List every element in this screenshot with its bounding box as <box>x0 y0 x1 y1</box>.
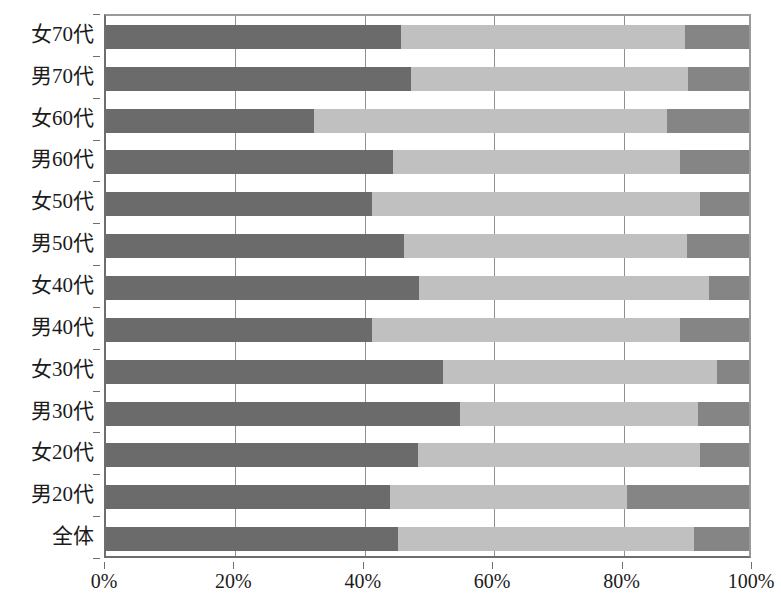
bar-segment-2 <box>418 443 700 467</box>
category-tick-1 <box>93 14 100 15</box>
bar-segment-1 <box>106 25 401 49</box>
bar-row <box>106 402 749 426</box>
bar-segment-2 <box>404 234 687 258</box>
bar-segment-3 <box>698 402 749 426</box>
bar-segment-3 <box>709 276 750 300</box>
category-tick-10 <box>93 391 100 392</box>
bar-segment-3 <box>685 25 749 49</box>
bar-segment-3 <box>667 109 749 133</box>
bar-segment-2 <box>314 109 667 133</box>
bar-row <box>106 192 749 216</box>
bar-row <box>106 67 749 91</box>
value-tick-mark-60 <box>492 562 493 569</box>
category-label-7: 女40代 <box>31 275 94 296</box>
category-label-1: 女70代 <box>31 24 94 45</box>
bar-row <box>106 150 749 174</box>
bar-segment-1 <box>106 109 314 133</box>
bar-segment-3 <box>700 443 749 467</box>
bar-row <box>106 360 749 384</box>
category-label-4: 男60代 <box>31 149 94 170</box>
category-label-8: 男40代 <box>31 317 94 338</box>
bar-segment-1 <box>106 318 372 342</box>
category-label-12: 男20代 <box>31 484 94 505</box>
bar-segment-3 <box>717 360 749 384</box>
bars-layer <box>106 16 749 556</box>
category-tick-3 <box>93 98 100 99</box>
bar-segment-2 <box>393 150 679 174</box>
value-tick-label-60: 60% <box>474 571 511 591</box>
bar-segment-3 <box>627 485 749 509</box>
bar-segment-1 <box>106 443 418 467</box>
category-tick-9 <box>93 349 100 350</box>
bar-segment-2 <box>372 192 700 216</box>
category-tick-8 <box>93 307 100 308</box>
category-label-11: 女20代 <box>31 442 94 463</box>
category-label-5: 女50代 <box>31 191 94 212</box>
bar-segment-2 <box>390 485 627 509</box>
bar-segment-2 <box>419 276 708 300</box>
bar-segment-3 <box>687 234 749 258</box>
bar-row <box>106 443 749 467</box>
category-label-3: 女60代 <box>31 108 94 129</box>
bar-row <box>106 109 749 133</box>
plot-area <box>104 14 751 558</box>
category-axis-labels: 女70代男70代女60代男60代女50代男50代女40代男40代女30代男30代… <box>0 14 100 558</box>
bar-segment-2 <box>411 67 688 91</box>
bar-segment-2 <box>398 527 694 551</box>
value-tick-mark-0 <box>104 562 105 569</box>
bar-row <box>106 276 749 300</box>
bar-segment-2 <box>372 318 681 342</box>
value-tick-mark-80 <box>622 562 623 569</box>
bar-segment-1 <box>106 234 404 258</box>
bar-segment-1 <box>106 67 411 91</box>
category-tick-end <box>93 558 100 559</box>
bar-segment-2 <box>460 402 698 426</box>
value-tick-label-0: 0% <box>91 571 118 591</box>
category-tick-13 <box>93 516 100 517</box>
bar-segment-3 <box>694 527 749 551</box>
bar-segment-3 <box>680 150 749 174</box>
value-tick-mark-100 <box>751 562 752 569</box>
category-label-9: 女30代 <box>31 359 94 380</box>
bar-segment-1 <box>106 485 390 509</box>
bar-segment-1 <box>106 402 460 426</box>
bar-segment-3 <box>688 67 749 91</box>
value-tick-label-40: 40% <box>344 571 381 591</box>
value-tick-label-80: 80% <box>603 571 640 591</box>
value-tick-label-100: 100% <box>728 571 775 591</box>
category-tick-11 <box>93 432 100 433</box>
bar-segment-1 <box>106 527 398 551</box>
bar-row <box>106 527 749 551</box>
bar-row <box>106 318 749 342</box>
bar-segment-1 <box>106 150 393 174</box>
value-tick-label-20: 20% <box>215 571 252 591</box>
category-tick-2 <box>93 56 100 57</box>
category-label-6: 男50代 <box>31 233 94 254</box>
bar-segment-1 <box>106 276 419 300</box>
bar-segment-1 <box>106 360 443 384</box>
bar-row <box>106 25 749 49</box>
bar-segment-3 <box>700 192 749 216</box>
category-label-13: 全体 <box>52 526 94 547</box>
bar-segment-1 <box>106 192 372 216</box>
value-tick-mark-40 <box>363 562 364 569</box>
category-tick-4 <box>93 140 100 141</box>
bar-segment-2 <box>401 25 685 49</box>
value-axis-labels: 0%20%40%60%80%100% <box>104 562 751 592</box>
bar-row <box>106 485 749 509</box>
category-tick-7 <box>93 265 100 266</box>
category-tick-6 <box>93 223 100 224</box>
bar-segment-3 <box>680 318 749 342</box>
category-label-10: 男30代 <box>31 401 94 422</box>
category-label-2: 男70代 <box>31 66 94 87</box>
category-tick-5 <box>93 181 100 182</box>
bar-segment-2 <box>443 360 717 384</box>
stacked-bar-chart: 女70代男70代女60代男60代女50代男50代女40代男40代女30代男30代… <box>0 0 781 606</box>
value-tick-mark-20 <box>233 562 234 569</box>
category-tick-12 <box>93 474 100 475</box>
bar-row <box>106 234 749 258</box>
